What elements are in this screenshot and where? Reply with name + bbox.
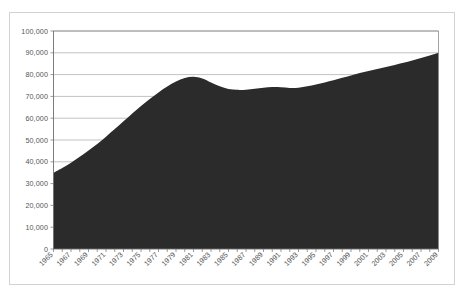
x-tick-label: 2007 xyxy=(404,250,422,268)
x-axis: 1965196719691971197319751977197919811983… xyxy=(37,249,440,268)
x-tick-label: 2001 xyxy=(352,250,370,268)
x-tick-label: 2009 xyxy=(422,250,440,268)
x-tick-label: 1967 xyxy=(54,250,72,268)
y-tick-label: 10,000 xyxy=(25,223,48,232)
area-series-path xyxy=(54,53,439,249)
y-tick-label: 60,000 xyxy=(25,114,48,123)
x-tick-label: 1985 xyxy=(212,250,230,268)
x-tick-label: 1973 xyxy=(107,250,125,268)
x-tick-label: 1971 xyxy=(89,250,107,268)
x-tick-label: 1999 xyxy=(334,250,352,268)
x-tick-label: 1975 xyxy=(124,250,142,268)
y-tick-label: 100,000 xyxy=(21,27,48,36)
y-tick-label: 50,000 xyxy=(25,136,48,145)
y-tick-label: 30,000 xyxy=(25,179,48,188)
y-tick-label: 80,000 xyxy=(25,70,48,79)
x-tick-label: 1965 xyxy=(37,250,55,268)
area-chart: 010,00020,00030,00040,00050,00060,00070,… xyxy=(0,0,465,298)
x-tick-label: 1991 xyxy=(264,250,282,268)
x-tick-label: 1993 xyxy=(282,250,300,268)
x-tick-label: 1997 xyxy=(317,250,335,268)
y-tick-label: 70,000 xyxy=(25,92,48,101)
x-tick-label: 1987 xyxy=(229,250,247,268)
x-tick-label: 2005 xyxy=(387,250,405,268)
y-tick-label: 20,000 xyxy=(25,201,48,210)
chart-figure: 010,00020,00030,00040,00050,00060,00070,… xyxy=(0,0,465,298)
x-tick-label: 1983 xyxy=(194,250,212,268)
y-axis: 010,00020,00030,00040,00050,00060,00070,… xyxy=(21,27,53,254)
x-tick-label: 1995 xyxy=(299,250,317,268)
x-tick-label: 1977 xyxy=(142,250,160,268)
x-tick-label: 1989 xyxy=(247,250,265,268)
x-tick-label: 1969 xyxy=(72,250,90,268)
data-area-series xyxy=(54,53,439,249)
y-tick-label: 40,000 xyxy=(25,157,48,166)
x-tick-label: 1981 xyxy=(177,250,195,268)
x-tick-label: 1979 xyxy=(159,250,177,268)
y-tick-label: 90,000 xyxy=(25,48,48,57)
x-tick-label: 2003 xyxy=(369,250,387,268)
